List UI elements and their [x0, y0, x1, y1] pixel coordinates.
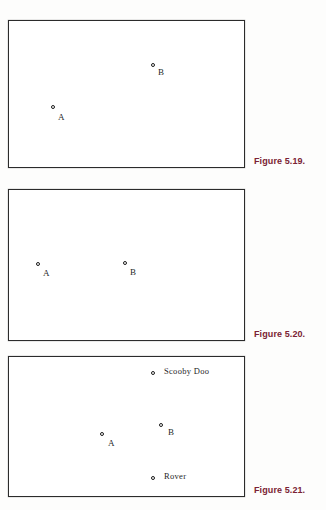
- point-label-a: A: [58, 113, 65, 122]
- point-label-a: A: [108, 439, 115, 448]
- figure-panel-5-19: B A: [8, 20, 245, 168]
- point-label-a: A: [43, 269, 50, 278]
- point-label-scooby-doo: Scooby Doo: [164, 367, 209, 376]
- point-marker-b: [123, 261, 127, 265]
- figure-caption-5-20: Figure 5.20.: [254, 329, 305, 339]
- point-marker-a: [51, 105, 55, 109]
- point-marker-a: [36, 262, 40, 266]
- point-marker-b: [151, 63, 155, 67]
- point-label-b: B: [158, 68, 164, 77]
- point-marker-rover: [151, 476, 155, 480]
- figure-panel-5-20: A B: [8, 189, 245, 341]
- point-label-b: B: [130, 268, 136, 277]
- figure-caption-5-21: Figure 5.21.: [254, 485, 305, 495]
- point-label-b: B: [168, 428, 174, 437]
- point-marker-b: [159, 423, 163, 427]
- point-marker-a: [100, 432, 104, 436]
- figure-caption-5-19: Figure 5.19.: [254, 156, 305, 166]
- figure-page: B A Figure 5.19. A B Figure 5.20. Scooby…: [0, 0, 326, 510]
- figure-panel-5-21: Scooby Doo B A Rover: [8, 356, 245, 497]
- point-marker-scooby-doo: [151, 371, 155, 375]
- point-label-rover: Rover: [164, 472, 186, 481]
